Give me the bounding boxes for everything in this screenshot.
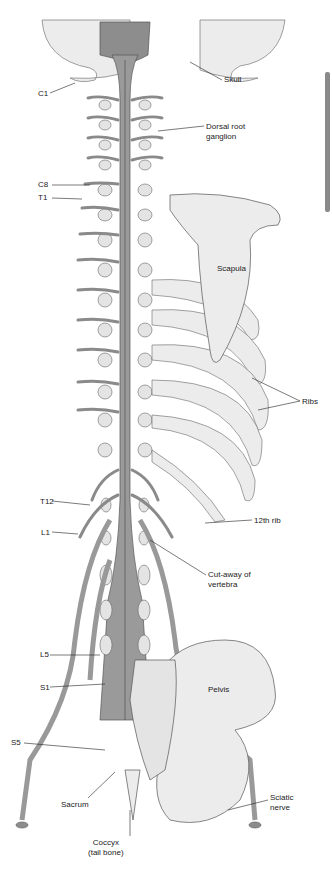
label-c1: C1 <box>38 89 48 99</box>
label-scapula: Scapula <box>217 264 246 274</box>
label-sacrum: Sacrum <box>61 800 89 810</box>
label-sciatic-nerve: Sciatic nerve <box>270 793 294 813</box>
label-t12: T12 <box>40 497 54 507</box>
label-s1: S1 <box>40 683 50 693</box>
label-t1: T1 <box>38 193 47 203</box>
label-cutaway-vertebra: Cut-away of vertebra <box>208 570 251 590</box>
label-s5: S5 <box>11 738 21 748</box>
label-dorsal-root-ganglion: Dorsal root ganglion <box>206 122 245 142</box>
label-c8: C8 <box>38 180 48 190</box>
label-pelvis: Pelvis <box>208 685 229 695</box>
label-l1: L1 <box>41 528 50 538</box>
label-l5: L5 <box>40 650 49 660</box>
side-bar <box>325 72 330 212</box>
coccyx <box>125 770 140 820</box>
label-12th-rib: 12th rib <box>254 516 281 526</box>
label-coccyx: Coccyx (tail bone) <box>88 838 124 858</box>
scapula <box>170 194 280 363</box>
label-skull: Skull <box>224 75 241 85</box>
label-ribs: Ribs <box>302 397 318 407</box>
spinal-diagram <box>0 0 332 880</box>
